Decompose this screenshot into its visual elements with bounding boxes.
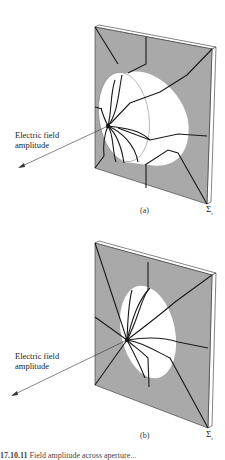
aperture-diagram-a: [0, 0, 225, 225]
aperture-diagram-b: [0, 230, 225, 455]
sigma-label-a: Σi: [206, 204, 213, 216]
electric-field-label-a: Electric field amplitude: [15, 130, 59, 150]
sublabel-b: (b): [140, 431, 149, 440]
label-line-1: Electric field: [15, 130, 59, 140]
sigma-subscript: i: [211, 436, 212, 441]
label-line-2: amplitude: [15, 361, 59, 371]
caption-text: Field amplitude across aperture...: [30, 451, 137, 460]
label-line-1: Electric field: [15, 351, 59, 361]
sigma-label-b: Σi: [206, 429, 213, 441]
electric-field-label-b: Electric field amplitude: [15, 351, 59, 371]
figure-caption: 17.10.11 Field amplitude across aperture…: [0, 451, 136, 460]
sublabel-a: (a): [140, 206, 149, 215]
figure-panel-b: Electric field amplitude (b) Σi: [0, 230, 225, 455]
sigma-subscript: i: [211, 211, 212, 216]
label-line-2: amplitude: [15, 140, 59, 150]
caption-number: 17.10.11: [0, 451, 28, 460]
figure-panel-a: Electric field amplitude (a) Σi: [0, 0, 225, 225]
